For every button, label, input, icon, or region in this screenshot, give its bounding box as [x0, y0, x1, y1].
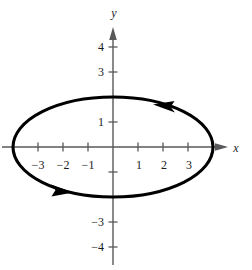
x-tick-label--3: −3: [32, 158, 45, 172]
x-tick-label--1: −1: [82, 158, 95, 172]
figure-background: [0, 0, 252, 270]
y-tick-label-3: 3: [98, 65, 104, 79]
graph-canvas: x y −3 −2 −1 1 2 3 4 3 1 −3 −4: [0, 0, 252, 270]
x-axis-label: x: [232, 141, 239, 155]
y-axis-label: y: [110, 6, 117, 20]
ellipse-figure: x y −3 −2 −1 1 2 3 4 3 1 −3 −4: [0, 0, 252, 270]
x-tick-label-3: 3: [186, 158, 192, 172]
y-tick-label-1: 1: [98, 115, 104, 129]
y-tick-label--3: −3: [91, 215, 104, 229]
x-tick-label-2: 2: [161, 158, 167, 172]
x-tick-label--2: −2: [57, 158, 70, 172]
y-tick-label-4: 4: [98, 40, 104, 54]
y-tick-label--4: −4: [91, 240, 104, 254]
x-tick-label-1: 1: [136, 158, 142, 172]
